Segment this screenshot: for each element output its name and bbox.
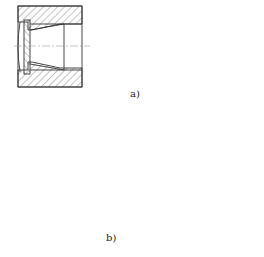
subfigure-label-b: b) xyxy=(106,232,116,243)
bore-section-a xyxy=(14,6,90,87)
subfigure-label-a: a) xyxy=(130,88,140,99)
technical-drawing xyxy=(0,0,264,257)
